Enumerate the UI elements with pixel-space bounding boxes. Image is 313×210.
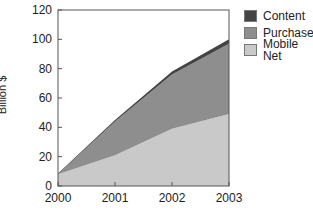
chart-legend: Content Purchases Mobile Net bbox=[244, 7, 313, 58]
y-tick-label: 80 bbox=[39, 62, 53, 76]
legend-label-mobile-net: Mobile Net bbox=[263, 38, 313, 62]
x-tick-label: 2000 bbox=[45, 191, 72, 205]
y-axis-label: Billion $ bbox=[0, 76, 8, 115]
y-tick-label: 100 bbox=[32, 32, 52, 46]
legend-swatch-purchases bbox=[244, 27, 257, 39]
y-tick-label: 120 bbox=[32, 3, 52, 17]
x-tick-label: 2003 bbox=[216, 191, 243, 205]
legend-item-content: Content bbox=[244, 7, 313, 24]
legend-swatch-mobile-net bbox=[244, 44, 257, 56]
y-tick-label: 40 bbox=[39, 120, 53, 134]
legend-item-mobile-net: Mobile Net bbox=[244, 41, 313, 58]
legend-swatch-content bbox=[244, 10, 257, 22]
x-tick-label: 2002 bbox=[159, 191, 186, 205]
legend-label-content: Content bbox=[263, 10, 305, 22]
stacked-area-chart: 0204060801001202000200120022003 Billion … bbox=[0, 0, 313, 210]
y-tick-label: 60 bbox=[39, 91, 53, 105]
y-tick-label: 20 bbox=[39, 150, 53, 164]
x-tick-label: 2001 bbox=[102, 191, 129, 205]
